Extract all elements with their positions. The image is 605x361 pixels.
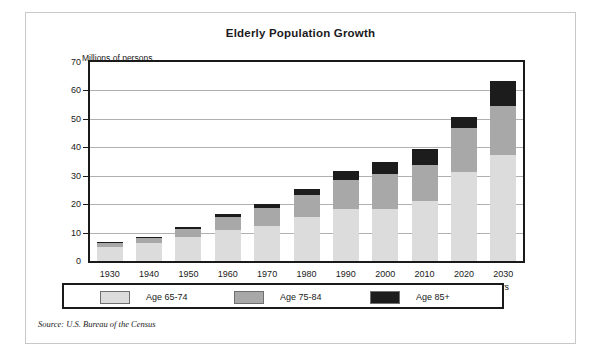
- bar-segment: [333, 171, 359, 180]
- source-note: Source: U.S. Bureau of the Census: [38, 319, 156, 329]
- bar-segment: [254, 226, 280, 261]
- bar-segment: [294, 217, 320, 261]
- legend-swatch: [370, 291, 400, 304]
- legend-label: Age 75-84: [280, 292, 322, 302]
- bar-1950: [175, 227, 201, 261]
- y-tick-mark: [83, 147, 88, 148]
- chart-legend: Age 65-74Age 75-84Age 85+: [62, 283, 504, 309]
- x-tick-label: 2020: [444, 269, 484, 279]
- legend-swatch: [234, 291, 264, 304]
- x-tick-label: 1930: [90, 269, 130, 279]
- y-tick-label: 0: [57, 257, 81, 266]
- legend-label: Age 65-74: [146, 292, 188, 302]
- bar-segment: [451, 172, 477, 261]
- y-tick-label: 50: [57, 115, 81, 124]
- bar-segment: [97, 247, 123, 261]
- bar-segment: [372, 174, 398, 209]
- bar-segment: [490, 81, 516, 107]
- chart-title: Elderly Population Growth: [26, 27, 575, 39]
- x-tick-label: 2000: [365, 269, 405, 279]
- y-tick-label: 70: [57, 58, 81, 67]
- y-tick-mark: [83, 90, 88, 91]
- bar-segment: [372, 162, 398, 174]
- x-tick-label: 1940: [129, 269, 169, 279]
- y-tick-label: 30: [57, 172, 81, 181]
- legend-item[interactable]: Age 65-74: [100, 290, 188, 304]
- x-tick-label: 1950: [168, 269, 208, 279]
- legend-label: Age 85+: [416, 292, 450, 302]
- bar-segment: [254, 208, 280, 225]
- x-tick-label: 1990: [326, 269, 366, 279]
- figure-frame: Elderly Population Growth Millions of pe…: [25, 12, 576, 344]
- y-tick-mark: [83, 233, 88, 234]
- x-tick-label: 1980: [287, 269, 327, 279]
- plot-inner: [90, 62, 523, 261]
- bar-1960: [215, 214, 241, 261]
- bar-segment: [372, 209, 398, 261]
- gridline: [90, 90, 523, 91]
- plot-area: [88, 60, 525, 263]
- y-tick-mark: [83, 176, 88, 177]
- bar-2010: [412, 149, 438, 261]
- y-tick-label: 10: [57, 229, 81, 238]
- bar-2020: [451, 117, 477, 261]
- bar-segment: [215, 230, 241, 261]
- bar-2030: [490, 81, 516, 262]
- x-tick-label: 1970: [247, 269, 287, 279]
- y-tick-label: 40: [57, 143, 81, 152]
- bar-1940: [136, 237, 162, 261]
- bar-2000: [372, 162, 398, 261]
- bar-segment: [175, 229, 201, 237]
- x-tick-label: 2030: [483, 269, 523, 279]
- bar-1930: [97, 242, 123, 261]
- bar-segment: [412, 201, 438, 261]
- bar-segment: [333, 180, 359, 209]
- bar-segment: [175, 237, 201, 261]
- bar-segment: [451, 117, 477, 128]
- y-tick-label: 20: [57, 200, 81, 209]
- y-tick-label: 60: [57, 86, 81, 95]
- bar-1970: [254, 204, 280, 261]
- x-tick-label: 2010: [405, 269, 445, 279]
- bar-segment: [136, 243, 162, 261]
- bar-segment: [412, 165, 438, 201]
- y-tick-mark: [83, 204, 88, 205]
- bar-segment: [294, 195, 320, 217]
- y-tick-mark: [83, 119, 88, 120]
- bar-segment: [333, 209, 359, 261]
- legend-swatch: [100, 291, 130, 304]
- bar-1980: [294, 189, 320, 261]
- bar-segment: [215, 217, 241, 230]
- bar-segment: [490, 155, 516, 261]
- bar-segment: [451, 128, 477, 172]
- bar-segment: [412, 149, 438, 165]
- legend-item[interactable]: Age 85+: [370, 290, 450, 304]
- legend-item[interactable]: Age 75-84: [234, 290, 322, 304]
- bar-segment: [490, 106, 516, 155]
- x-tick-label: 1960: [208, 269, 248, 279]
- bar-1990: [333, 171, 359, 261]
